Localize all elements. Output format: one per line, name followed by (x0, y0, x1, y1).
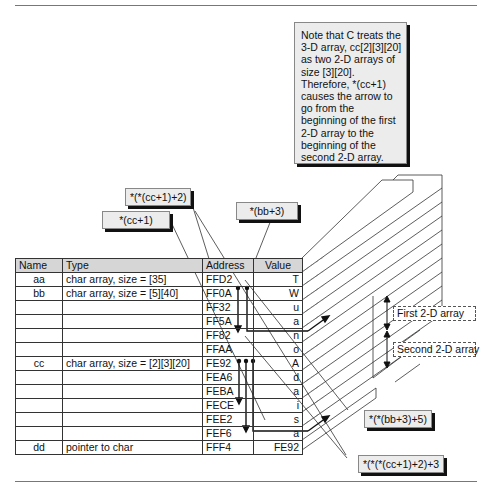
table-row: FF32u (16, 301, 303, 315)
cell-address: FEA6 (203, 371, 254, 385)
callout-cc-plus-1-2: *(*(cc+1)+2) (125, 188, 191, 206)
cell-name (16, 385, 63, 399)
table-row: FF82n (16, 329, 303, 343)
cell-name (16, 427, 63, 441)
first-2d-array-label: First 2-D array (393, 306, 476, 321)
callout-cc-plus-1: *(cc+1) (102, 211, 170, 229)
table-row: FECEi (16, 399, 303, 413)
cell-value: n (254, 329, 303, 343)
cell-type (63, 343, 203, 357)
bottom-rule (15, 481, 477, 482)
cell-address: FF5A (203, 315, 254, 329)
cell-type (63, 427, 203, 441)
cell-value: u (254, 301, 303, 315)
callout-bb-plus-3: *(bb+3) (236, 202, 298, 220)
cell-address: FEE2 (203, 413, 254, 427)
cell-name (16, 301, 63, 315)
cell-name: dd (16, 441, 63, 455)
cell-type (63, 371, 203, 385)
cell-type (63, 399, 203, 413)
cell-name (16, 315, 63, 329)
cell-name: cc (16, 357, 63, 371)
cell-address: FEBA (203, 385, 254, 399)
table-row: FF5Aa (16, 315, 303, 329)
callout-cc-plus-1-2-3: *(*(*(cc+1)+2)+3 (358, 455, 444, 473)
callout-text: *(*(*(cc+1)+2)+3 (363, 458, 439, 470)
callout-text: *(*(cc+1)+2) (130, 191, 187, 203)
table-row: FEBAa (16, 385, 303, 399)
cell-value: d (254, 371, 303, 385)
cell-value: T (254, 273, 303, 287)
explanation-note: Note that C treats the 3-D array, cc[2][… (294, 22, 407, 164)
cell-name (16, 329, 63, 343)
cell-type: char array, size = [2][3][20] (63, 357, 203, 371)
cell-type: pointer to char (63, 441, 203, 455)
cell-value: a (254, 385, 303, 399)
cell-type: char array, size = [35] (63, 273, 203, 287)
cell-address: FFAA (203, 343, 254, 357)
table-row: FEA6d (16, 371, 303, 385)
cell-type (63, 329, 203, 343)
cell-name: bb (16, 287, 63, 301)
cell-address: FF0A (203, 287, 254, 301)
top-rule (15, 5, 477, 6)
cell-value: a (254, 315, 303, 329)
table-row: FFAAo (16, 343, 303, 357)
dashed-marks (306, 256, 325, 423)
cell-name: aa (16, 273, 63, 287)
cell-address: FECE (203, 399, 254, 413)
cell-type (63, 315, 203, 329)
span-arrows (384, 296, 390, 368)
cell-type: char array, size = [5][40] (63, 287, 203, 301)
cell-value: W (254, 287, 303, 301)
cell-address: FE92 (203, 357, 254, 371)
memory-table: Name Type Address Value aachar array, si… (15, 258, 303, 455)
table-header-row: Name Type Address Value (16, 259, 303, 273)
callout-text: *(*(bb+3)+5) (369, 413, 427, 425)
callout-bb-plus-3-5: *(*(bb+3)+5) (364, 410, 432, 428)
cell-type (63, 413, 203, 427)
header-name: Name (16, 259, 63, 273)
cell-name (16, 343, 63, 357)
table-row: bbchar array, size = [5][40]FF0AW (16, 287, 303, 301)
cell-type (63, 301, 203, 315)
header-value: Value (254, 259, 303, 273)
header-address: Address (203, 259, 254, 273)
second-2d-array-label: Second 2-D array (393, 342, 476, 357)
cell-address: FFF4 (203, 441, 254, 455)
header-type: Type (63, 259, 203, 273)
callout-text: *(cc+1) (119, 214, 153, 226)
cell-value: o (254, 343, 303, 357)
callout-text: *(bb+3) (250, 205, 285, 217)
table-row: aachar array, size = [35]FFD2T (16, 273, 303, 287)
cell-name (16, 371, 63, 385)
table-row: ddpointer to charFFF4FE92 (16, 441, 303, 455)
cell-name (16, 399, 63, 413)
cell-name (16, 413, 63, 427)
cell-address: FF82 (203, 329, 254, 343)
cell-address: FEF6 (203, 427, 254, 441)
cell-value: s (254, 413, 303, 427)
cell-value: a (254, 427, 303, 441)
note-text: Note that C treats the 3-D array, cc[2][… (301, 29, 401, 163)
table-row: FEF6a (16, 427, 303, 441)
cell-type (63, 385, 203, 399)
table-row: ccchar array, size = [2][3][20]FE92A (16, 357, 303, 371)
cell-value: FE92 (254, 441, 303, 455)
cell-value: i (254, 399, 303, 413)
cell-address: FFD2 (203, 273, 254, 287)
label-text: First 2-D array (397, 307, 464, 319)
label-text: Second 2-D array (397, 343, 479, 355)
cell-value: A (254, 357, 303, 371)
table-row: FEE2s (16, 413, 303, 427)
cell-address: FF32 (203, 301, 254, 315)
